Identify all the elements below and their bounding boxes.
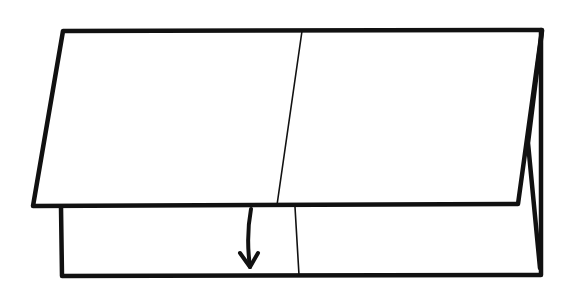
origami-diagram: origami-fold-step [0,0,565,290]
lower-panel [61,30,541,276]
upper-crease-line [277,31,302,205]
fold-diagram-svg [0,0,565,290]
lower-crease-line [295,207,299,275]
fold-down-arrow-icon [240,209,258,267]
upper-flap [33,30,542,206]
